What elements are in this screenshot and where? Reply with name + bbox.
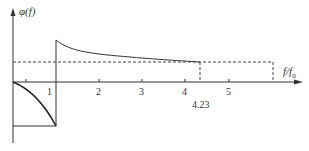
tick-label-2: 2: [96, 86, 101, 97]
tick-label-1: 1: [47, 86, 52, 97]
phase-chart: [0, 0, 309, 151]
x-axis-arrow-icon: [294, 80, 303, 85]
tick-label-4: 4: [182, 86, 187, 97]
y-axis-arrow-icon: [11, 8, 16, 16]
y-axis-label: φ(f): [19, 5, 35, 17]
annotation-4-23: 4.23: [192, 99, 210, 110]
tick-label-5: 5: [226, 86, 231, 97]
x-axis-label: f/f0: [283, 65, 296, 80]
curve-above-f0: [56, 40, 200, 62]
tick-label-3: 3: [139, 86, 144, 97]
